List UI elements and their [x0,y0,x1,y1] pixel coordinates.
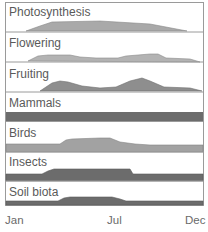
panel-label-flowering: Flowering [9,36,61,50]
x-tick-jan: Jan [5,214,24,226]
panel-label-fruiting: Fruiting [9,67,49,81]
area-mammals [6,112,203,121]
panel-label-soil-biota: Soil biota [9,185,59,199]
panel-label-insects: Insects [9,155,47,169]
seasonal-activity-chart: Photosynthesis Flowering Fruiting Mammal… [0,0,208,232]
panel-label-photosynthesis: Photosynthesis [9,5,90,19]
panel-label-birds: Birds [9,126,36,140]
x-tick-dec: Dec [185,214,206,226]
x-tick-jul: Jul [107,214,122,226]
panel-label-mammals: Mammals [9,96,61,110]
